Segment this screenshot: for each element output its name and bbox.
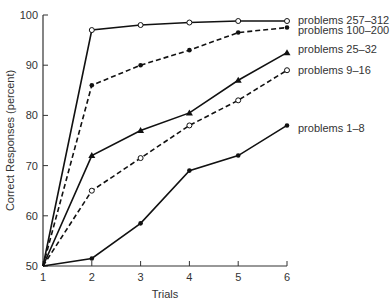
series-line	[43, 53, 287, 266]
x-tick-label: 1	[40, 271, 46, 283]
series-2	[43, 25, 289, 266]
marker-open-circle	[187, 20, 192, 25]
marker-open-circle	[89, 28, 94, 33]
marker-open-circle	[138, 23, 143, 28]
series-1	[43, 19, 290, 266]
series-line	[43, 70, 287, 266]
marker-filled-circle	[187, 48, 192, 53]
line-chart: 5060708090100123456TrialsCorrect Respons…	[0, 0, 390, 307]
marker-open-circle	[187, 123, 192, 128]
marker-filled-circle	[236, 153, 241, 158]
y-tick-label: 100	[20, 9, 38, 21]
x-tick-label: 6	[284, 271, 290, 283]
marker-open-circle	[285, 19, 290, 24]
legend-label: problems 9–16	[298, 64, 371, 76]
legend-label: problems 25–32	[298, 43, 377, 55]
marker-filled-circle	[138, 63, 143, 68]
legend-label: problems 1–8	[298, 122, 365, 134]
x-tick-label: 2	[89, 271, 95, 283]
marker-filled-circle	[90, 83, 95, 88]
series-3	[43, 49, 291, 266]
legend-label: problems 100–200	[298, 24, 389, 36]
series-line	[43, 125, 287, 266]
legend: problems 257–312problems 100–200problems…	[298, 14, 389, 134]
marker-filled-circle	[187, 168, 192, 173]
series-5	[43, 123, 289, 266]
x-tick-label: 4	[186, 271, 192, 283]
y-tick-label: 60	[26, 210, 38, 222]
marker-open-circle	[236, 98, 241, 103]
marker-filled-triangle	[284, 49, 291, 55]
marker-open-circle	[89, 188, 94, 193]
series-line	[43, 28, 287, 266]
marker-filled-circle	[138, 221, 143, 226]
x-axis-title: Trials	[152, 288, 179, 300]
marker-open-circle	[138, 156, 143, 161]
x-tick-label: 5	[235, 271, 241, 283]
marker-filled-circle	[285, 123, 290, 128]
x-tick-label: 3	[138, 271, 144, 283]
y-tick-label: 90	[26, 59, 38, 71]
series-4	[43, 68, 290, 266]
marker-filled-circle	[236, 30, 241, 35]
y-tick-label: 50	[26, 260, 38, 272]
marker-filled-circle	[90, 256, 95, 261]
series-group	[43, 19, 291, 266]
y-axis-title: Correct Responses (percent)	[4, 70, 16, 211]
marker-filled-circle	[285, 25, 290, 30]
y-tick-label: 80	[26, 109, 38, 121]
y-tick-label: 70	[26, 160, 38, 172]
marker-open-circle	[285, 68, 290, 73]
marker-open-circle	[236, 19, 241, 24]
